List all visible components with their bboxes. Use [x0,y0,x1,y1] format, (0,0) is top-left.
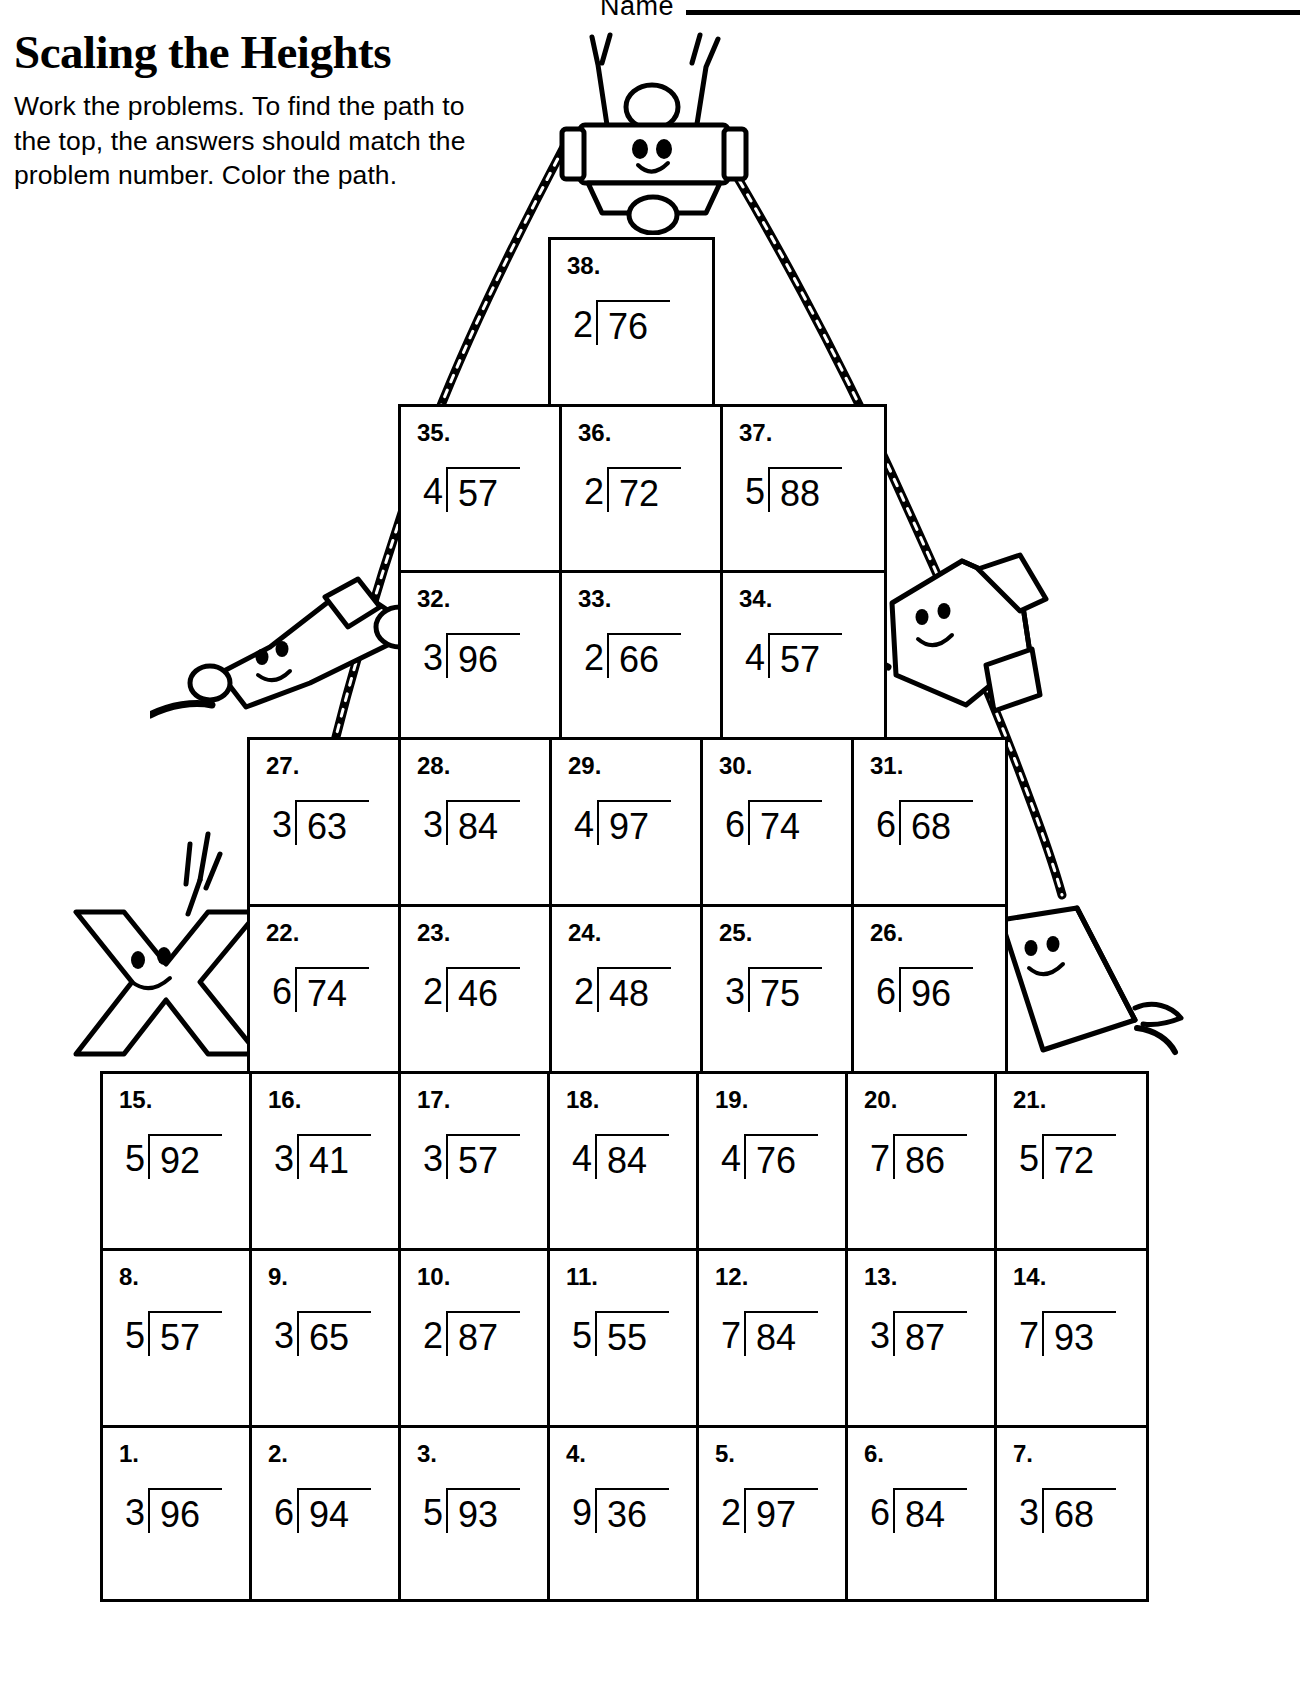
crayon-character-right-icon [870,545,1060,740]
problem-cell[interactable]: 21.572 [997,1074,1146,1248]
long-division-expression: 592 [119,1134,249,1179]
dividend: 65 [309,1317,353,1356]
problem-cell[interactable]: 17.357 [401,1074,550,1248]
problem-number: 16. [268,1088,398,1112]
problem-number: 32. [417,587,559,611]
long-division-expression: 287 [417,1311,547,1356]
divisor: 2 [423,967,443,1010]
problem-cell[interactable]: 6.684 [848,1428,997,1599]
divisor: 3 [274,1311,294,1354]
problem-cell[interactable]: 34.457 [723,573,884,737]
page-title: Scaling the Heights [14,28,524,77]
problem-cell[interactable]: 26.696 [854,907,1005,1071]
dividend: 48 [609,973,653,1012]
problem-cell[interactable]: 37.588 [723,407,884,570]
problem-number: 15. [119,1088,249,1112]
long-division-expression: 476 [715,1134,845,1179]
problem-cell[interactable]: 27.363 [250,740,401,904]
problem-cell[interactable]: 2.694 [252,1428,401,1599]
long-division-expression: 593 [417,1488,547,1533]
problem-cell[interactable]: 8.557 [103,1251,252,1425]
problem-row: 32.39633.26634.457 [398,570,887,737]
problem-cell[interactable]: 11.555 [550,1251,699,1425]
long-division-expression: 266 [578,633,720,678]
long-division-expression: 588 [739,467,884,512]
problem-cell[interactable]: 10.287 [401,1251,550,1425]
problem-cell[interactable]: 7.368 [997,1428,1146,1599]
problem-cell[interactable]: 38.276 [551,240,712,409]
dividend: 72 [1054,1140,1098,1179]
problem-cell[interactable]: 29.497 [552,740,703,904]
divisor: 6 [272,967,292,1010]
divisor: 6 [876,967,896,1010]
problem-number: 11. [566,1265,696,1289]
division-bracket-icon: 93 [1042,1311,1116,1356]
divisor: 4 [745,633,765,676]
long-division-expression: 396 [119,1488,249,1533]
divisor: 3 [272,800,292,843]
problem-cell[interactable]: 5.297 [699,1428,848,1599]
problem-cell[interactable]: 4.936 [550,1428,699,1599]
long-division-expression: 457 [417,467,559,512]
problem-cell[interactable]: 16.341 [252,1074,401,1248]
problem-cell[interactable]: 3.593 [401,1428,550,1599]
long-division-expression: 387 [864,1311,994,1356]
problem-cell[interactable]: 33.266 [562,573,723,737]
long-division-expression: 572 [1013,1134,1146,1179]
divisor: 7 [870,1134,890,1177]
division-bracket-icon: 41 [297,1134,371,1179]
problem-cell[interactable]: 23.246 [401,907,552,1071]
problem-cell[interactable]: 12.784 [699,1251,848,1425]
divisor: 3 [725,967,745,1010]
problem-cell[interactable]: 19.476 [699,1074,848,1248]
divisor: 4 [574,800,594,843]
problem-cell[interactable]: 1.396 [103,1428,252,1599]
divisor: 4 [572,1134,592,1177]
problem-cell[interactable]: 14.793 [997,1251,1146,1425]
problem-cell[interactable]: 31.668 [854,740,1005,904]
problem-cell[interactable]: 32.396 [401,573,562,737]
division-bracket-icon: 94 [297,1488,371,1533]
problem-number: 23. [417,921,549,945]
divisor: 5 [1019,1134,1039,1177]
division-bracket-icon: 84 [446,800,520,845]
problem-cell[interactable]: 35.457 [401,407,562,570]
divisor: 9 [572,1488,592,1531]
division-bracket-icon: 96 [446,633,520,678]
problem-number: 1. [119,1442,249,1466]
division-bracket-icon: 76 [744,1134,818,1179]
problem-cell[interactable]: 22.674 [250,907,401,1071]
problem-cell[interactable]: 30.674 [703,740,854,904]
dividend: 66 [619,639,663,678]
problem-number: 27. [266,754,398,778]
divisor: 3 [870,1311,890,1354]
problem-cell[interactable]: 13.387 [848,1251,997,1425]
problem-cell[interactable]: 24.248 [552,907,703,1071]
long-division-expression: 357 [417,1134,547,1179]
long-division-expression: 363 [266,800,398,845]
name-write-line[interactable] [686,10,1300,15]
divisor: 2 [423,1311,443,1354]
problem-cell[interactable]: 18.484 [550,1074,699,1248]
problem-cell[interactable]: 20.786 [848,1074,997,1248]
dividend: 84 [905,1494,949,1533]
problem-cell[interactable]: 9.365 [252,1251,401,1425]
division-bracket-icon: 74 [295,967,369,1012]
long-division-expression: 457 [739,633,884,678]
problem-number: 12. [715,1265,845,1289]
problem-cell[interactable]: 28.384 [401,740,552,904]
problem-cell[interactable]: 36.272 [562,407,723,570]
divisor: 2 [584,467,604,510]
problem-number: 25. [719,921,851,945]
problem-cell[interactable]: 15.592 [103,1074,252,1248]
divisor: 4 [423,467,443,510]
problem-number: 21. [1013,1088,1146,1112]
divisor: 5 [125,1311,145,1354]
division-bracket-icon: 57 [768,633,842,678]
division-bracket-icon: 46 [446,967,520,1012]
problem-cell[interactable]: 25.375 [703,907,854,1071]
dividend: 55 [607,1317,651,1356]
divisor: 2 [574,967,594,1010]
dividend: 88 [780,473,824,512]
problem-number: 6. [864,1442,994,1466]
